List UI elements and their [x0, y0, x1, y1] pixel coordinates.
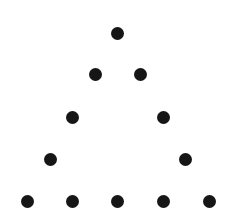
dot-row-5	[203, 195, 216, 208]
dot-row-3	[157, 111, 170, 124]
dot-row-5	[66, 195, 79, 208]
dot-row-4	[44, 153, 57, 166]
dot-row-2	[89, 68, 102, 81]
dot-row-4	[179, 153, 192, 166]
dot-row-5	[21, 195, 34, 208]
dot-row-1	[111, 27, 124, 40]
dot-triangle-diagram	[0, 0, 231, 222]
dot-row-2	[134, 68, 147, 81]
dot-row-5	[111, 195, 124, 208]
dot-row-3	[66, 111, 79, 124]
dot-row-5	[157, 195, 170, 208]
